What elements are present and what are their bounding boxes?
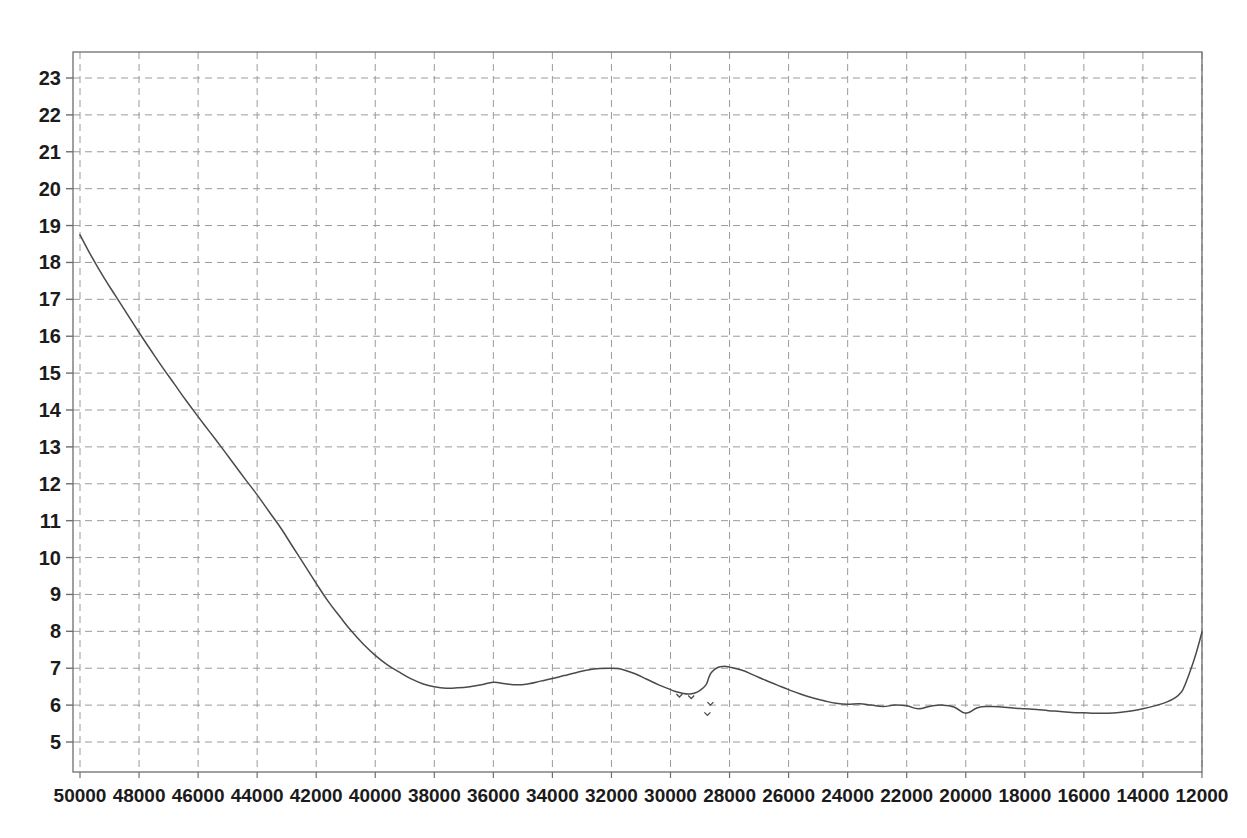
plot-frame [73,52,1202,772]
y-axis-tick-label: 22 [39,105,61,125]
plot-border [73,52,1202,772]
data-series-layer [80,235,1202,716]
y-axis-tick-label: 18 [39,252,61,272]
y-axis-tick-label: 11 [40,511,61,531]
y-axis-tick-label: 7 [50,658,61,678]
y-axis-tick-label: 9 [50,584,61,604]
noise-spike-shape [704,712,710,715]
noise-spike-shape [688,696,694,699]
y-axis-tick-label: 8 [50,621,61,641]
y-axis-tick-label: 21 [39,142,61,162]
y-axis-tick-label: 13 [39,437,61,457]
y-axis-tick-label: 19 [39,216,61,236]
y-axis-tick-label: 10 [39,548,61,568]
y-axis-tick-label: 6 [50,695,61,715]
y-axis-tick-label: 14 [39,400,61,420]
y-axis-tick-label: 23 [39,68,61,88]
y-axis-tick-label: 12 [39,474,61,494]
grid-lines [73,52,1202,772]
series-line-spectrum [80,235,1202,714]
line-chart-plot [0,0,1247,838]
y-axis-tick-label: 20 [39,179,61,199]
chart-container: 567891011121314151617181920212223 500004… [0,0,1247,838]
x-axis-tick-label: 12000 [1162,786,1242,805]
y-axis-tick-label: 5 [50,732,61,752]
noise-spike-shape [676,694,682,697]
y-axis-tick-label: 16 [39,326,61,346]
y-axis-tick-label: 15 [39,363,61,383]
y-axis-tick-label: 17 [39,289,61,309]
